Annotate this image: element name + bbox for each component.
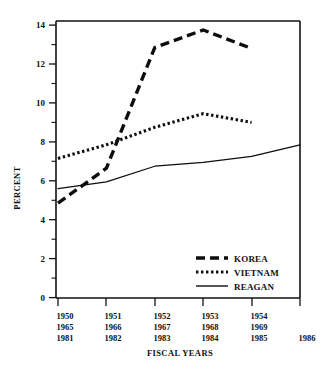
x-tick-label-row1-col3: 1968 (202, 322, 219, 332)
x-tick-label-row0-col4: 1954 (251, 311, 269, 321)
x-tick-label-row0-col3: 1953 (202, 311, 219, 321)
x-tick-label-row1-col1: 1966 (105, 322, 122, 332)
series-line-reagan (58, 145, 300, 189)
legend-label-korea: KOREA (234, 254, 268, 264)
x-tick-label-row0-col1: 1951 (105, 311, 122, 321)
y-tick-label-4: 4 (41, 215, 46, 225)
y-tick-label-14: 14 (36, 20, 46, 30)
y-axis-title: PERCENT (12, 166, 22, 209)
y-tick-label-0: 0 (41, 293, 46, 303)
x-tick-label-row2-col4: 1985 (251, 333, 268, 343)
legend: KOREA VIETNAM REAGAN (196, 254, 279, 292)
x-tick-label-row2-col1: 1982 (105, 333, 122, 343)
legend-label-vietnam: VIETNAM (234, 268, 279, 278)
x-tick-label-row0-col0: 1950 (57, 311, 74, 321)
y-tick-label-2: 2 (41, 254, 46, 264)
x-tick-label-row2-col2: 1983 (154, 333, 171, 343)
x-tick-labels: 1950 1951 1952 1953 1954 1965 1966 1967 … (57, 311, 316, 343)
x-tick-label-row1-col4: 1969 (251, 322, 268, 332)
x-tick-label-row1-col2: 1967 (154, 322, 172, 332)
x-tick-label-row0-col2: 1952 (154, 311, 171, 321)
legend-label-reagan: REAGAN (234, 282, 275, 292)
chart-container: 14 12 10 8 6 4 2 0 PERCENT 1950 1951 195… (0, 0, 333, 373)
x-tick-label-row2-col5: 1986 (299, 333, 316, 343)
line-chart: 14 12 10 8 6 4 2 0 PERCENT 1950 1951 195… (0, 0, 333, 373)
x-tick-label-row1-col0: 1965 (57, 322, 74, 332)
x-tick-label-row2-col3: 1984 (202, 333, 220, 343)
y-tick-label-6: 6 (41, 176, 46, 186)
x-axis-title: FISCAL YEARS (147, 348, 213, 358)
series-line-vietnam (58, 114, 252, 159)
y-tick-label-8: 8 (41, 137, 46, 147)
y-tick-label-10: 10 (36, 98, 46, 108)
x-axis-ticks (58, 298, 300, 306)
data-series-group (58, 30, 300, 203)
y-axis-ticks: 14 12 10 8 6 4 2 0 (36, 20, 56, 303)
y-tick-label-12: 12 (36, 59, 46, 69)
x-tick-label-row2-col0: 1981 (57, 333, 74, 343)
